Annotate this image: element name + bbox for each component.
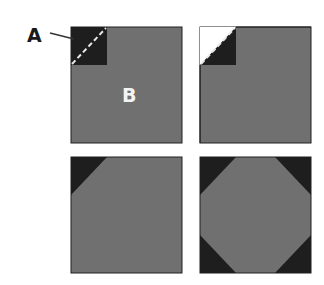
label-b: B	[122, 84, 136, 106]
snowball-block-diagram: A B	[0, 0, 324, 285]
panel-step-1: A B	[27, 24, 182, 143]
label-a: A	[27, 24, 42, 46]
panel-step-3	[71, 157, 182, 273]
panel-step-4	[200, 157, 311, 273]
label-a-leader-line	[50, 33, 74, 39]
panel-step-2	[200, 27, 311, 143]
